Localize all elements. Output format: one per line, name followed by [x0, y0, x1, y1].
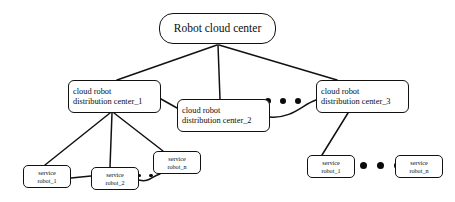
node-label-line1: cloud robot: [182, 106, 220, 116]
node-cloud-robot-distribution-center-1[interactable]: cloud robot distribution center_1: [68, 80, 161, 113]
node-label-line2: distribution center_3: [321, 97, 391, 107]
edge-root-to-dc3: [219, 45, 337, 80]
ellipsis-dot: [377, 162, 384, 169]
edge-dc1-to-service-robot-n: [114, 113, 163, 151]
edge-service-robot-1-to-2: [71, 176, 91, 178]
node-service-robot-2-left[interactable]: service robot_2: [91, 167, 139, 190]
node-label-line2: robot_n: [167, 163, 186, 170]
node-label-line1: service: [168, 155, 186, 162]
node-label: Robot cloud center: [174, 22, 262, 36]
node-cloud-robot-distribution-center-3[interactable]: cloud robot distribution center_3: [316, 80, 409, 113]
diagram-canvas: Robot cloud center cloud robot distribut…: [0, 0, 455, 202]
node-cloud-robot-distribution-center-2[interactable]: cloud robot distribution center_2: [177, 99, 270, 132]
edge-dc1-to-service-robot-1: [45, 113, 110, 165]
ellipsis-dot: [280, 98, 286, 104]
node-service-robot-1-right[interactable]: service robot_1: [307, 155, 355, 178]
node-label-line1: service: [38, 169, 56, 176]
edge-dc1-to-dc2: [161, 99, 177, 108]
edge-root-to-dc1: [117, 45, 217, 80]
node-label-line1: service: [322, 159, 340, 166]
node-service-robot-n-left[interactable]: service robot_n: [153, 151, 201, 174]
edge-dc3-to-right-service-robot-1: [322, 113, 348, 155]
ellipsis-dot: [360, 162, 367, 169]
node-label-line1: service: [106, 171, 124, 178]
node-label-line1: cloud robot: [321, 87, 359, 97]
node-label-line2: robot_1: [37, 177, 56, 184]
node-label-line2: robot_1: [321, 167, 340, 174]
node-robot-cloud-center[interactable]: Robot cloud center: [159, 13, 276, 44]
ellipsis-dot: [149, 174, 152, 177]
node-service-robot-1-left[interactable]: service robot_1: [23, 165, 71, 188]
node-label-line1: cloud robot: [73, 87, 111, 97]
node-label-line2: robot_n: [409, 167, 428, 174]
ellipsis-between-left-service-robots: [138, 174, 153, 177]
node-label-line2: distribution center_1: [73, 97, 143, 107]
ellipsis-between-distribution-centers: [265, 98, 301, 104]
edge-dc1-to-service-robot-2: [110, 113, 112, 167]
node-label-line1: service: [410, 159, 428, 166]
ellipsis-dot: [295, 98, 301, 104]
node-service-robot-n-right[interactable]: service robot_n: [395, 155, 443, 178]
edge-root-to-dc2: [218, 45, 220, 99]
node-label-line2: distribution center_2: [182, 116, 252, 126]
node-label-line2: robot_2: [105, 179, 124, 186]
